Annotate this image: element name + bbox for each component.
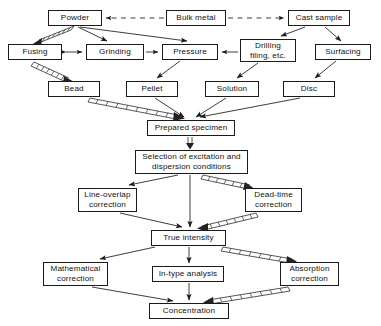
node-prepared-specimen[interactable]: Prepared specimen: [147, 120, 235, 136]
edge-fusing-to-bead-hatched: [31, 62, 69, 82]
node-bulk-metal[interactable]: Bulk metal: [166, 10, 226, 26]
edge-bead-to-prepared-hatched: [88, 98, 178, 119]
flowchart-diagram: Powder Bulk metal Cast sample Fusing Gri…: [0, 0, 381, 326]
node-drilling-filing[interactable]: Drilling filing, etc.: [240, 39, 296, 62]
node-grinding[interactable]: Grinding: [86, 44, 144, 60]
edge-mathematical-to-concentration: [92, 287, 173, 301]
edge-surfacing-to-disc: [315, 61, 336, 78]
edge-absorption-to-concentration-hatched: [208, 287, 290, 304]
node-dead-time-correction[interactable]: Dead-time correction: [245, 188, 302, 212]
node-selection-conditions[interactable]: Selection of excitation and dispersion c…: [135, 150, 248, 174]
edge-true-intensity-to-absorption-hatched: [221, 247, 292, 263]
node-line-overlap-correction[interactable]: Line-overlap correction: [78, 188, 137, 212]
node-solution[interactable]: Solution: [205, 81, 259, 97]
node-absorption-correction[interactable]: Absorption correction: [280, 262, 339, 286]
edge-drilling-to-solution: [237, 63, 258, 78]
edge-pellet-to-prepared: [155, 98, 184, 117]
node-in-type-analysis[interactable]: In-type analysis: [152, 266, 224, 282]
edge-dead-time-to-true-intensity-hatched: [202, 213, 258, 230]
edge-disc-to-prepared: [200, 98, 300, 117]
node-fusing[interactable]: Fusing: [8, 44, 62, 60]
edge-line-overlap-to-true-intensity: [120, 213, 182, 227]
edge-cast-sample-to-surfacing: [325, 27, 341, 41]
node-disc[interactable]: Disc: [283, 81, 335, 97]
node-bead[interactable]: Bead: [48, 81, 100, 97]
node-cast-sample[interactable]: Cast sample: [288, 10, 350, 26]
node-pellet[interactable]: Pellet: [126, 81, 178, 97]
node-concentration[interactable]: Concentration: [149, 303, 229, 319]
edge-powder-to-fusing-hatched: [36, 26, 74, 44]
node-mathematical-correction[interactable]: Mathematical correction: [43, 262, 108, 286]
node-true-intensity[interactable]: True intensity: [151, 230, 226, 246]
node-pressure[interactable]: Pressure: [162, 44, 218, 60]
edge-selection-to-line-overlap: [129, 175, 178, 185]
edge-powder-to-pressure: [80, 27, 187, 41]
node-powder[interactable]: Powder: [48, 10, 102, 26]
edge-solution-to-prepared: [196, 98, 226, 117]
edge-cast-sample-to-drilling: [281, 27, 305, 36]
edge-powder-to-grinding: [78, 27, 107, 41]
edge-true-intensity-to-mathematical: [100, 247, 155, 259]
node-surfacing[interactable]: Surfacing: [315, 44, 371, 60]
edge-selection-to-dead-time-hatched: [201, 175, 250, 189]
hatched-arrowhead-selection: [186, 143, 194, 150]
edge-pressure-to-pellet: [157, 61, 180, 78]
